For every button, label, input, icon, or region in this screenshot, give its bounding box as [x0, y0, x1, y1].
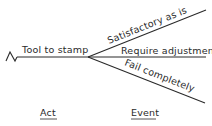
column-label-act: Act: [40, 107, 56, 118]
decision-tree-diagram: Tool to stamp Satisfactory as is Require…: [0, 0, 212, 126]
break-zigzag-icon: [6, 52, 17, 61]
event-label-satisfactory: Satisfactory as is: [106, 4, 189, 46]
act-label: Tool to stamp: [21, 44, 88, 55]
event-label-adjustment: Require adjustment: [121, 45, 212, 56]
column-label-event: Event: [131, 107, 159, 118]
